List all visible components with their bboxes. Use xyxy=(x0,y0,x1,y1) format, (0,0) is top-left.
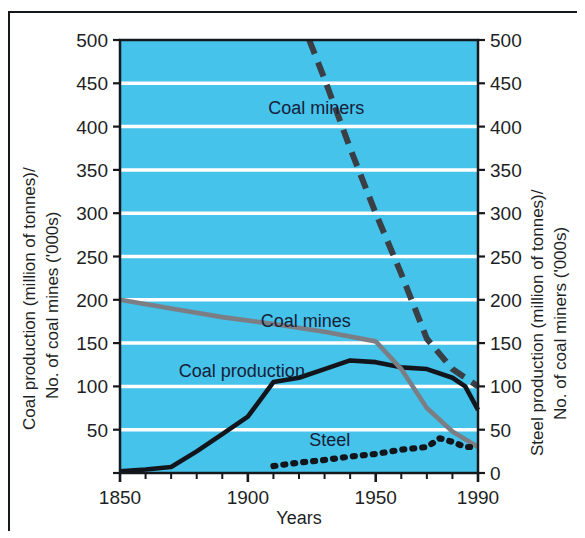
x-tick-label: 1950 xyxy=(355,487,397,508)
y-tick-label-left: 300 xyxy=(76,203,108,224)
chart-figure: 50100150200250300350400450500 0501001502… xyxy=(0,0,585,538)
y-tick-label-right: 450 xyxy=(490,73,522,94)
y-tick-label-left: 400 xyxy=(76,117,108,138)
chart-svg: 50100150200250300350400450500 0501001502… xyxy=(0,0,585,538)
y-axis-right-tick-labels: 050100150200250300350400450500 xyxy=(490,30,522,484)
series-label: Coal miners xyxy=(268,98,364,118)
series-label: Coal mines xyxy=(261,311,351,331)
y-tick-label-right: 250 xyxy=(490,247,522,268)
series-label: Coal production xyxy=(179,361,305,381)
y-tick-label-left: 450 xyxy=(76,73,108,94)
y-tick-label-left: 200 xyxy=(76,290,108,311)
y-tick-label-left: 500 xyxy=(76,30,108,51)
y-tick-label-right: 200 xyxy=(490,290,522,311)
x-tick-label: 1900 xyxy=(227,487,269,508)
y-axis-right-title-line2: No. of coal miners ('000s) xyxy=(551,227,570,420)
series-label: Steel xyxy=(309,430,350,450)
y-tick-label-right: 350 xyxy=(490,160,522,181)
y-tick-label-right: 500 xyxy=(490,30,522,51)
y-axis-left-tick-labels: 50100150200250300350400450500 xyxy=(76,30,108,441)
y-axis-right-title-line1: Steel production (million of tonnes)/ xyxy=(528,189,547,456)
y-tick-label-right: 50 xyxy=(490,420,511,441)
y-tick-label-left: 100 xyxy=(76,376,108,397)
y-axis-left-title-line1: Coal production (million of tonnes)/ xyxy=(20,167,39,430)
x-tick-label: 1990 xyxy=(457,487,499,508)
y-tick-label-left: 350 xyxy=(76,160,108,181)
y-tick-label-right: 0 xyxy=(490,463,501,484)
x-axis-tick-labels: 1850190019501990 xyxy=(99,487,499,508)
y-tick-label-left: 50 xyxy=(87,420,108,441)
y-tick-label-right: 150 xyxy=(490,333,522,354)
x-axis-title: Years xyxy=(276,508,321,528)
y-tick-label-right: 400 xyxy=(490,117,522,138)
x-tick-label: 1850 xyxy=(99,487,141,508)
y-tick-label-right: 100 xyxy=(490,376,522,397)
y-tick-label-left: 150 xyxy=(76,333,108,354)
y-tick-label-right: 300 xyxy=(490,203,522,224)
y-tick-label-left: 250 xyxy=(76,247,108,268)
y-axis-left-title-line2: No. of coal mines ('000s) xyxy=(43,212,62,400)
